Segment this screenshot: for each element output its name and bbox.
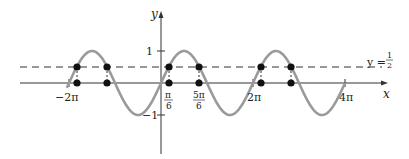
dot-upper xyxy=(73,63,80,70)
dot-upper xyxy=(287,63,294,70)
x-tick-label-5pi6-num: 5π xyxy=(193,90,205,100)
x-axis-arrow xyxy=(381,81,388,86)
y-tick-label-neg1: −1 xyxy=(142,109,158,122)
y-axis-arrow xyxy=(159,11,164,18)
dot-axis xyxy=(257,79,264,86)
dot-upper xyxy=(103,63,110,70)
x-tick-label-2pi: 2π xyxy=(247,91,261,104)
line-label-prefix: y = xyxy=(366,56,386,69)
dot-axis xyxy=(195,79,202,86)
x-tick-label-pi6-num: π xyxy=(165,90,171,100)
x-tick-label-5pi6-den: 6 xyxy=(196,101,202,111)
y-tick-label-1: 1 xyxy=(146,45,153,58)
dot-upper xyxy=(195,63,202,70)
x-tick-label-4pi: 4π xyxy=(339,91,353,104)
x-tick-label-pi6-den: 6 xyxy=(166,101,172,111)
dot-axis xyxy=(165,79,172,86)
dot-upper xyxy=(165,63,172,70)
y-axis-label: y xyxy=(150,7,158,21)
dot-axis xyxy=(287,79,294,86)
sine-chart: y x 1 −1 −2π π 6 5π 6 2π 4π y = 1 2 xyxy=(0,0,409,159)
line-label-num: 1 xyxy=(387,51,392,60)
dot-axis xyxy=(103,79,110,86)
line-label-den: 2 xyxy=(387,61,392,70)
x-axis-label: x xyxy=(383,87,390,101)
dot-upper xyxy=(257,63,264,70)
x-tick-label-neg2pi: −2π xyxy=(55,91,78,104)
dot-axis xyxy=(73,79,80,86)
